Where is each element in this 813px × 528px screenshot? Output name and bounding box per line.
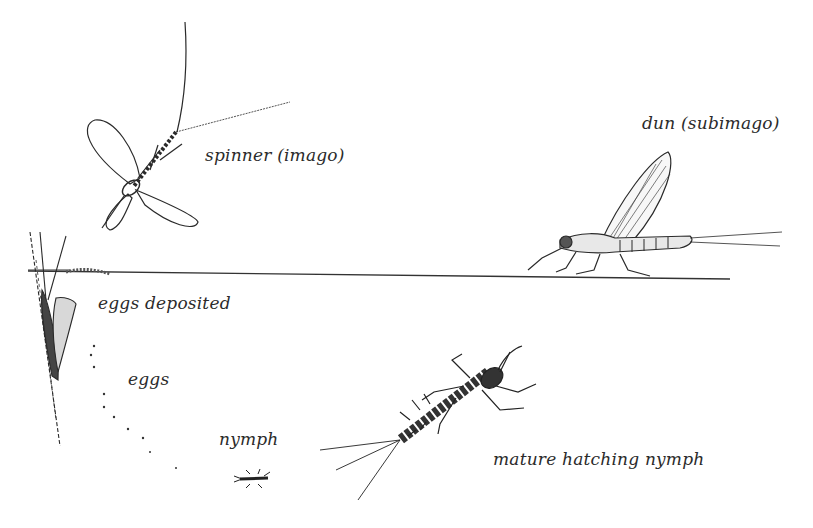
label-dun: dun (subimago) bbox=[642, 113, 780, 133]
label-spinner: spinner (imago) bbox=[205, 145, 345, 165]
label-mature-hatching-nymph: mature hatching nymph bbox=[493, 449, 704, 469]
label-eggs: eggs bbox=[128, 369, 169, 389]
egg-laying-female-illustration bbox=[30, 232, 76, 446]
mature-nymph-illustration bbox=[320, 346, 536, 500]
small-nymph-illustration bbox=[234, 469, 270, 488]
label-nymph: nymph bbox=[219, 429, 279, 449]
spinner-illustration bbox=[87, 22, 290, 230]
label-eggs-deposited: eggs deposited bbox=[98, 293, 231, 313]
mayfly-life-cycle-diagram: spinner (imago) dun (subimago) eggs depo… bbox=[0, 0, 813, 528]
eggs-trail bbox=[90, 345, 177, 469]
water-surface-line bbox=[28, 269, 730, 279]
dun-illustration bbox=[528, 152, 782, 276]
